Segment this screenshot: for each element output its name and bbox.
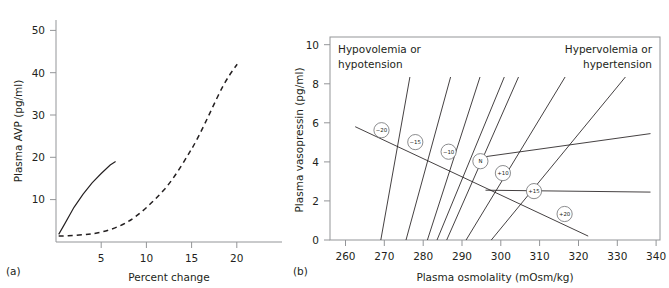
node-plus20: +20 [557,206,572,221]
panel-a: 50 40 30 20 10 5 10 15 20 ( [0,0,300,288]
panel-b-ytick-0: 0 [312,234,319,246]
node-plus10: +10 [495,166,510,181]
panel-b: 0 2 4 6 8 10 260 270 280 [290,0,669,288]
panel-b-xtick-280: 280 [413,250,433,262]
panel-b-x-axis-title: Plasma osmolality (mOsm/kg) [416,271,573,283]
annotation-top-right: Hypervolemia orhypertension [565,43,653,70]
panel-b-xtick-330: 330 [607,250,627,262]
panel-b-xtick-270: 270 [374,250,394,262]
node-minus20: −20 [374,123,389,138]
node-minus20-label: −20 [376,127,388,133]
panel-a-xtick-5: 5 [98,252,105,264]
node-plus20-label: +20 [559,211,571,217]
annotation-top-left-line1: Hypovolemia orhypotension [338,43,422,70]
node-minus10-label: −10 [443,149,455,155]
panel-b-x-ticks: 260 270 280 290 300 310 320 330 340 [335,240,666,262]
panel-b-xtick-290: 290 [452,250,472,262]
panel-a-ytick-50: 50 [32,24,45,36]
panel-b-label: (b) [293,265,308,277]
panel-a-x-ticks: 5 10 15 20 [98,242,244,264]
node-plus15: +15 [526,184,541,199]
panel-b-nodes: −20 −15 −10 N +10 [374,123,572,222]
node-plus10-label: +10 [497,170,509,176]
figure-container: 50 40 30 20 10 5 10 15 20 ( [0,0,669,288]
panel-b-xtick-260: 260 [335,250,355,262]
panel-b-response-lines [355,127,650,236]
isopleth-minus10 [427,77,480,240]
panel-a-dashed-curve [59,64,238,236]
panel-a-y-ticks: 50 40 30 20 10 [32,24,56,205]
panel-b-y-ticks: 0 2 4 6 8 10 [306,39,330,246]
isopleth-minus20 [381,77,410,240]
node-minus15-label: −15 [410,139,421,145]
panel-b-xtick-300: 300 [491,250,511,262]
node-minus10: −10 [441,144,456,159]
response-line-lower [486,190,651,192]
panel-b-xtick-320: 320 [568,250,588,262]
panel-b-y-axis-title: Plasma vasopressin (pg/ml) [293,68,305,213]
panel-b-isopleths [381,77,626,240]
panel-a-plot: 50 40 30 20 10 5 10 15 20 ( [0,0,300,288]
panel-a-xtick-10: 10 [140,252,153,264]
annotation-top-left: Hypovolemia orhypotension [338,43,422,70]
panel-a-ytick-20: 20 [32,151,45,163]
panel-b-ytick-10: 10 [306,39,319,51]
panel-a-xtick-20: 20 [230,252,243,264]
panel-b-ytick-6: 6 [312,117,319,129]
panel-a-x-axis-title: Percent change [128,271,210,283]
panel-b-xtick-340: 340 [646,250,666,262]
panel-a-ytick-40: 40 [32,67,45,79]
response-line-upper [355,127,588,236]
node-normal: N [473,154,488,169]
response-line-mid [476,134,651,158]
panel-a-label: (a) [6,265,21,277]
panel-a-ytick-30: 30 [32,109,45,121]
node-plus15-label: +15 [528,188,539,194]
node-minus15: −15 [408,135,423,150]
panel-b-ytick-2: 2 [312,195,319,207]
panel-b-ytick-4: 4 [312,156,319,168]
annotation-top-right-line1: Hypervolemia orhypertension [565,43,653,70]
isopleth-minus15 [406,77,451,240]
panel-a-xtick-15: 15 [185,252,198,264]
panel-a-solid-curve [59,162,116,235]
panel-b-plot: 0 2 4 6 8 10 260 270 280 [290,0,669,288]
panel-b-xtick-310: 310 [530,250,550,262]
node-normal-label: N [478,158,482,164]
panel-a-y-axis-title: Plasma AVP (pg/ml) [12,80,24,183]
panel-a-ytick-10: 10 [32,193,45,205]
panel-b-ytick-8: 8 [312,78,319,90]
